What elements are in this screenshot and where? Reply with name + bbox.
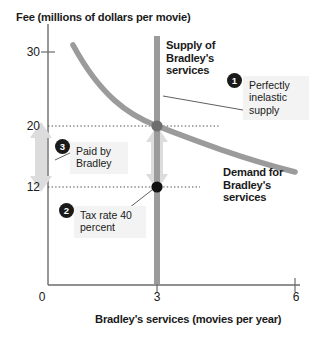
x-tick-label-3: 3 [147,290,167,304]
callout-tax-rate: Tax rate 40 percent [74,206,146,238]
callout-badge-3: 3 [55,139,70,154]
y-axis-title: Fee (millions of dollars per movie) [16,11,191,23]
callout-perfectly-inelastic-supply: Perfectly inelastic supply [243,76,309,120]
callout-badge-2: 2 [59,203,74,218]
callout-1-leader [163,96,243,110]
after-tax-fee-point [151,181,162,192]
x-tick-label-0: 0 [32,290,52,304]
callout-paid-by-bradley: Paid by Bradley [70,142,128,174]
supply-demand-chart: Fee (millions of dollars per movie) Brad… [0,0,312,339]
y-tick-label-20: 20 [16,119,40,133]
x-tick-label-6: 6 [286,290,306,304]
demand-curve-label: Demand for Bradley's services [223,166,283,204]
equilibrium-fee-point [151,120,162,131]
y-tick-label-30: 30 [16,45,40,59]
y-tick-label-12: 12 [16,180,40,194]
callout-badge-1: 1 [227,73,242,88]
x-axis-title: Bradley's services (movies per year) [95,313,281,325]
supply-curve-label: Supply of Bradley's services [166,39,215,77]
